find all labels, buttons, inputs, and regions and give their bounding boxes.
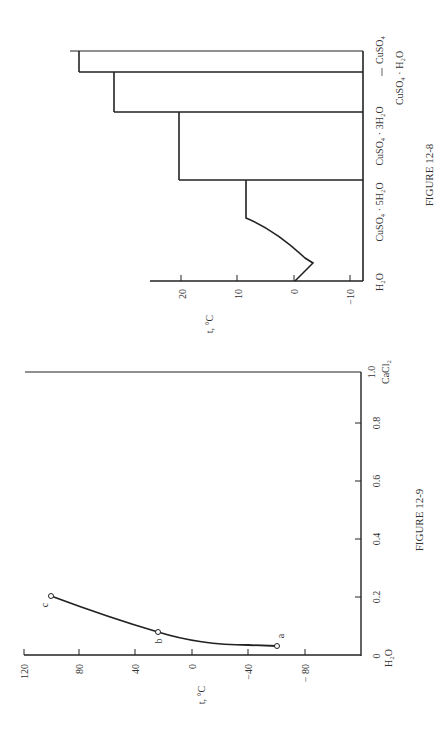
figure-12-9-labels: c b a 120 80 40 0 −40 − 80 t, °C 0 0.2 0…: [19, 360, 425, 704]
point-c: [49, 594, 54, 599]
x-label-pentahydrate: CuSO₄ · 5H₂O: [374, 182, 385, 241]
tick-label-neg80: − 80: [300, 664, 311, 682]
tick-label-120: 120: [19, 664, 30, 679]
figure-12-8: [70, 51, 381, 281]
x-label-trihydrate: CuSO₄ · 3H₂O: [374, 106, 385, 165]
x-tick-1-0: 1.0: [366, 366, 377, 379]
figure-12-9: [24, 372, 361, 656]
solubility-curve: [51, 596, 277, 646]
tick-label-20: 20: [177, 289, 188, 299]
point-a: [275, 644, 280, 649]
x-label-h2o: H₂O: [383, 649, 394, 667]
y-axis-title: t, °C: [196, 685, 207, 704]
liquidus-curve: [246, 180, 313, 281]
figure-12-8-labels: 20 10 0 −10 t, °C H₂O CuSO₄ · 5H₂O CuSO₄…: [177, 36, 435, 334]
point-label-a: a: [275, 633, 286, 638]
tick-label-neg40: −40: [243, 664, 254, 680]
x-tick-0-2: 0.2: [371, 591, 382, 604]
x-tick-0-4: 0.4: [371, 533, 382, 546]
point-label-b: b: [153, 639, 164, 644]
tick-label-neg10: −10: [345, 289, 356, 305]
x-label-cacl2: CaCl₂: [380, 360, 391, 384]
figure-title: FIGURE 12-9: [413, 488, 425, 551]
x-tick-0-8: 0.8: [371, 417, 382, 430]
tick-label-80: 80: [74, 664, 85, 674]
point-b: [156, 630, 161, 635]
page-figures: 20 10 0 −10 t, °C H₂O CuSO₄ · 5H₂O CuSO₄…: [0, 0, 443, 729]
x-tick-0: 0: [371, 654, 382, 659]
x-label-h2o: H₂O: [374, 273, 385, 291]
x-label-cuso4: CuSO₄: [374, 36, 385, 64]
tick-label-0: 0: [289, 289, 300, 294]
figure-title: FIGURE 12-8: [423, 143, 435, 206]
point-label-c: c: [39, 602, 50, 607]
tick-label-10: 10: [233, 289, 244, 299]
x-label-monohydrate: CuSO₄ · H₂O: [394, 51, 405, 105]
tick-label-40: 40: [130, 664, 141, 674]
tick-label-0: 0: [187, 664, 198, 669]
x-tick-0-6: 0.6: [371, 475, 382, 488]
y-axis-title: t, °C: [204, 314, 215, 333]
